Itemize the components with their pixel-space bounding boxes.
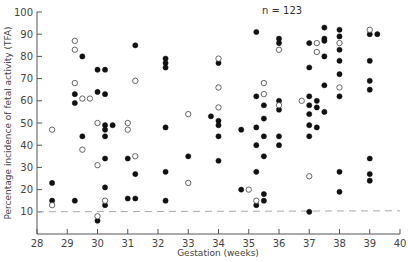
filled-data-point [239, 187, 244, 192]
open-data-point [276, 47, 281, 52]
filled-data-point [110, 123, 115, 128]
filled-data-point [337, 47, 342, 52]
x-tick-label: 28 [31, 238, 44, 249]
chart-container: 1020304050607080901002829303132333435363… [0, 0, 408, 262]
open-data-point [367, 27, 372, 32]
open-data-point [80, 96, 85, 101]
filled-data-point [261, 198, 266, 203]
filled-data-point [261, 154, 266, 159]
open-data-point [337, 85, 342, 90]
filled-data-point [163, 125, 168, 130]
y-tick-label: 70 [20, 73, 33, 84]
x-tick-label: 38 [333, 238, 346, 249]
x-tick-label: 40 [394, 238, 407, 249]
x-tick-label: 30 [91, 238, 104, 249]
filled-data-point [276, 134, 281, 139]
open-data-point [72, 80, 77, 85]
open-data-point [254, 198, 259, 203]
open-data-point [49, 202, 54, 207]
filled-data-point [337, 27, 342, 32]
filled-data-point [254, 143, 259, 148]
open-data-point [72, 38, 77, 43]
filled-data-point [125, 156, 130, 161]
y-tick-label: 20 [20, 184, 33, 195]
filled-data-point [337, 58, 342, 63]
reference-line [37, 211, 400, 212]
filled-data-point [102, 127, 107, 132]
filled-data-point [367, 171, 372, 176]
filled-data-point [102, 92, 107, 97]
open-data-point [261, 91, 266, 96]
filled-data-point [102, 156, 107, 161]
filled-data-point [322, 36, 327, 41]
y-tick-label: 50 [20, 118, 33, 129]
filled-data-point [102, 134, 107, 139]
filled-data-point [307, 94, 312, 99]
filled-data-point [95, 89, 100, 94]
open-data-point [87, 96, 92, 101]
x-tick-label: 39 [363, 238, 376, 249]
filled-data-point [307, 112, 312, 117]
filled-data-point [102, 185, 107, 190]
filled-data-point [276, 143, 281, 148]
open-data-point [186, 111, 191, 116]
filled-data-point [337, 189, 342, 194]
open-data-point [186, 180, 191, 185]
open-data-point [299, 98, 304, 103]
filled-data-point [163, 198, 168, 203]
filled-data-point [72, 100, 77, 105]
filled-data-point [254, 169, 259, 174]
filled-data-point [163, 65, 168, 70]
filled-data-point [322, 109, 327, 114]
y-tick-label: 10 [20, 206, 33, 217]
filled-data-point [322, 54, 327, 59]
open-data-point [314, 49, 319, 54]
filled-data-point [307, 209, 312, 214]
x-axis-label: Gestation (weeks) [177, 248, 259, 258]
open-data-point [49, 127, 54, 132]
filled-data-point [314, 98, 319, 103]
filled-data-point [133, 171, 138, 176]
filled-data-point [254, 94, 259, 99]
filled-data-point [307, 65, 312, 70]
filled-data-point [367, 156, 372, 161]
open-data-point [276, 103, 281, 108]
filled-data-point [367, 78, 372, 83]
open-data-point [337, 40, 342, 45]
filled-data-point [337, 72, 342, 77]
open-data-point [133, 154, 138, 159]
open-data-point [133, 78, 138, 83]
filled-data-point [239, 127, 244, 132]
filled-data-point [216, 123, 221, 128]
filled-data-point [254, 29, 259, 34]
filled-data-point [314, 125, 319, 130]
filled-data-point [133, 43, 138, 48]
filled-data-point [322, 83, 327, 88]
open-data-point [246, 187, 251, 192]
filled-data-point [367, 178, 372, 183]
filled-data-point [254, 125, 259, 130]
open-data-point [261, 80, 266, 85]
filled-data-point [307, 123, 312, 128]
open-data-point [95, 214, 100, 219]
filled-data-point [133, 196, 138, 201]
y-tick-label: 60 [20, 95, 33, 106]
open-data-point [307, 174, 312, 179]
open-data-point [314, 40, 319, 45]
open-data-point [80, 147, 85, 152]
filled-data-point [72, 198, 77, 203]
open-data-point [216, 105, 221, 110]
filled-data-point [102, 67, 107, 72]
filled-data-point [367, 58, 372, 63]
scatter-plot: 1020304050607080901002829303132333435363… [0, 0, 408, 262]
open-data-point [216, 85, 221, 90]
x-tick-label: 32 [152, 238, 165, 249]
filled-data-point [276, 36, 281, 41]
y-tick-label: 30 [20, 162, 33, 173]
filled-data-point [50, 180, 55, 185]
filled-data-point [208, 114, 213, 119]
y-axis-label: Percentage incidence of fetal activity (… [3, 26, 13, 219]
filled-data-point [337, 34, 342, 39]
filled-data-point [163, 169, 168, 174]
filled-data-point [80, 54, 85, 59]
